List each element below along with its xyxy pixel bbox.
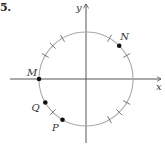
unit-circle-diagram: x y NMQP [0,0,165,145]
tick-mark [42,54,49,58]
point-p [60,117,65,122]
y-axis-label: y [75,2,82,13]
tick-mark [123,54,130,58]
point-label-n: N [119,31,130,42]
tick-mark [123,101,130,105]
tick-mark [61,35,65,42]
tick-mark [108,35,112,42]
point-q [43,100,48,105]
point-m [37,77,42,82]
point-n [117,43,122,48]
points: NMQP [26,31,130,134]
x-axis-label: x [156,81,162,92]
point-label-m: M [26,67,38,78]
tick-mark [108,116,112,123]
point-label-p: P [51,122,59,133]
point-label-q: Q [32,102,40,113]
